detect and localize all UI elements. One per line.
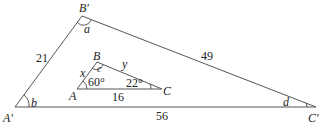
vertex-label-a-prime: A′ — [3, 112, 13, 124]
angle-label-a: a — [84, 23, 90, 35]
side-label-ab-large: 21 — [36, 52, 48, 64]
side-label-bc-large: 49 — [201, 50, 213, 62]
side-label-ac-small: 16 — [112, 91, 124, 103]
side-label-x: x — [80, 67, 85, 79]
vertex-label-a: A — [69, 90, 76, 102]
side-label-ac-large: 56 — [156, 110, 168, 122]
angle-label-b: b — [31, 97, 37, 109]
angle-arc-b — [24, 95, 29, 107]
vertex-label-b: B — [93, 50, 100, 62]
vertex-label-c-prime: C′ — [308, 112, 319, 124]
angle-arc-60 — [83, 81, 87, 89]
vertex-label-b-prime: B′ — [79, 2, 89, 14]
side-label-y: y — [122, 58, 127, 70]
angle-label-22: 22° — [126, 77, 143, 89]
angle-label-60: 60° — [88, 76, 105, 88]
angle-label-d: d — [283, 96, 289, 108]
vertex-label-c: C — [163, 85, 171, 97]
similar-triangles-diagram: B′ A′ C′ 21 49 56 a b d B A C x y 16 c 6… — [0, 0, 325, 128]
angle-label-c: c — [97, 64, 101, 74]
